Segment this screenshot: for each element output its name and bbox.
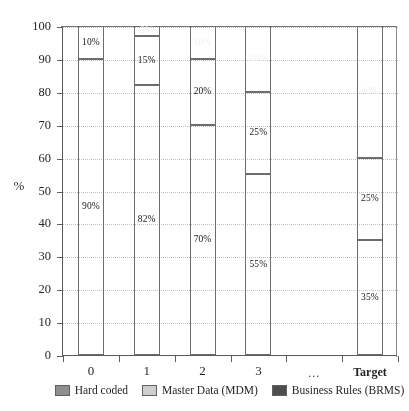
bar-segment-hard-coded: 82% xyxy=(134,85,160,355)
bar-segment-master-data: 25% xyxy=(357,158,383,240)
gridline-10 xyxy=(63,323,398,324)
gridline-40 xyxy=(63,224,398,225)
x-tick-5 xyxy=(342,356,343,362)
y-tick-50 xyxy=(57,192,63,193)
y-axis-label-50: 50 xyxy=(17,185,51,198)
bar-segment-hard-coded: 35% xyxy=(357,240,383,355)
gridline-80 xyxy=(63,93,398,94)
y-tick-30 xyxy=(57,257,63,258)
bar-segment-label: 40% xyxy=(361,87,379,97)
legend-label-business-rules: Business Rules (BRMS) xyxy=(292,384,404,396)
bar-segment-label: 20% xyxy=(249,54,267,64)
gridline-20 xyxy=(63,290,398,291)
bar-segment-label: 3% xyxy=(140,26,153,36)
bar-segment-label: 90% xyxy=(82,202,100,212)
gridline-90 xyxy=(63,60,398,61)
y-axis-label-10: 10 xyxy=(17,316,51,329)
gridline-60 xyxy=(63,159,398,160)
bar-segment-label: 10% xyxy=(82,38,100,48)
y-tick-20 xyxy=(57,290,63,291)
y-axis-label-30: 30 xyxy=(17,250,51,263)
y-tick-70 xyxy=(57,126,63,127)
y-tick-100 xyxy=(57,27,63,28)
bar-segment-master-data: 20% xyxy=(190,59,216,125)
bar-segment-business-rules: 3% xyxy=(134,26,160,36)
x-tick-4 xyxy=(286,356,287,362)
chart-legend: Hard coded Master Data (MDM) Business Ru… xyxy=(62,380,397,400)
gridline-70 xyxy=(63,126,398,127)
bar-segment-label: 35% xyxy=(361,293,379,303)
plot-area: 100 90 80 70 60 50 40 30 20 10 0 0 1 2 3… xyxy=(62,27,397,356)
y-axis-label-90: 90 xyxy=(17,53,51,66)
stacked-bar-chart: % 100 90 80 70 60 50 40 30 xyxy=(0,0,409,411)
legend-swatch-master-data xyxy=(142,385,157,396)
x-tick-end xyxy=(398,356,399,362)
x-tick-3 xyxy=(231,356,232,362)
x-axis-label-ellipsis: ... xyxy=(284,366,344,381)
bar-segment-label: 70% xyxy=(194,235,212,245)
y-tick-80 xyxy=(57,93,63,94)
y-tick-40 xyxy=(57,224,63,225)
x-axis-label-target: Target xyxy=(340,365,400,380)
gridline-50 xyxy=(63,192,398,193)
y-axis-label-80: 80 xyxy=(17,86,51,99)
bar-segment-label: 20% xyxy=(194,87,212,97)
legend-label-master-data: Master Data (MDM) xyxy=(162,384,258,396)
legend-swatch-business-rules xyxy=(272,385,287,396)
y-tick-90 xyxy=(57,60,63,61)
bar-segment-label: 10% xyxy=(194,38,212,48)
y-axis-label-20: 20 xyxy=(17,283,51,296)
y-tick-10 xyxy=(57,323,63,324)
x-axis-label-0: 0 xyxy=(61,363,121,379)
y-axis-label-100: 100 xyxy=(17,20,51,33)
bar-segment-master-data: 10% xyxy=(78,26,104,59)
legend-label-hard-coded: Hard coded xyxy=(75,384,128,396)
bar-segment-label: 82% xyxy=(138,215,156,225)
x-tick-start xyxy=(63,356,64,362)
x-axis-label-1: 1 xyxy=(117,363,177,379)
y-axis-label-60: 60 xyxy=(17,152,51,165)
y-axis-label-70: 70 xyxy=(17,119,51,132)
gridline-30 xyxy=(63,257,398,258)
bar-segment-hard-coded: 70% xyxy=(190,125,216,355)
y-tick-60 xyxy=(57,159,63,160)
gridline-100 xyxy=(63,27,398,28)
bar-segment-hard-coded: 55% xyxy=(245,174,271,355)
x-tick-1 xyxy=(119,356,120,362)
bar-segment-master-data: 15% xyxy=(134,36,160,85)
bar-segment-master-data: 25% xyxy=(245,92,271,174)
bar-segment-label: 25% xyxy=(249,128,267,138)
y-axis-label-40: 40 xyxy=(17,217,51,230)
legend-item-business-rules: Business Rules (BRMS) xyxy=(272,384,404,396)
bar-segment-hard-coded: 90% xyxy=(78,59,104,355)
bar-segment-business-rules: 10% xyxy=(190,26,216,59)
legend-item-hard-coded: Hard coded xyxy=(55,384,128,396)
bar-segment-business-rules: 40% xyxy=(357,26,383,158)
bar-segment-label: 55% xyxy=(249,260,267,270)
x-axis-label-3: 3 xyxy=(228,363,288,379)
y-axis-label-0: 0 xyxy=(17,349,51,362)
legend-swatch-hard-coded xyxy=(55,385,70,396)
legend-item-master-data: Master Data (MDM) xyxy=(142,384,258,396)
x-axis-label-2: 2 xyxy=(173,363,233,379)
x-tick-2 xyxy=(175,356,176,362)
bar-segment-label: 25% xyxy=(361,194,379,204)
bar-segment-business-rules: 20% xyxy=(245,26,271,92)
bar-segment-label: 15% xyxy=(138,56,156,66)
